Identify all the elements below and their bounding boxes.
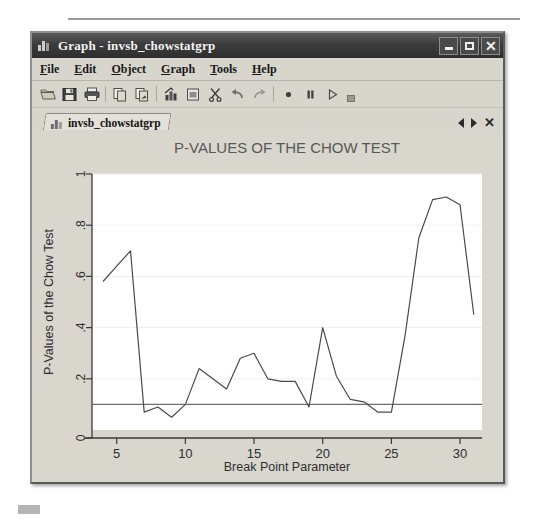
maximize-button[interactable] <box>460 37 479 55</box>
tab-prev-icon[interactable] <box>458 118 464 128</box>
menu-edit[interactable]: Edit <box>74 62 96 77</box>
x-axis-label: Break Point Parameter <box>224 460 350 474</box>
toolbar-separator <box>154 85 160 103</box>
y-tick-label: .6 <box>74 271 88 281</box>
close-button[interactable]: ✕ <box>481 37 500 55</box>
plot-area <box>92 174 482 430</box>
graph-window: Graph - invsb_chowstatgrp ✕ File Edit Ob… <box>30 31 505 484</box>
menu-tools[interactable]: Tools <box>210 62 237 77</box>
menu-graph[interactable]: Graph <box>161 62 195 77</box>
y-tick-label: .4 <box>74 322 88 332</box>
menu-file-rest: ile <box>47 62 59 76</box>
page-top-rule <box>68 18 520 20</box>
toolbar-separator <box>103 85 109 103</box>
x-tick-label: 20 <box>315 446 329 461</box>
y-axis-label: P-Values of the Chow Test <box>42 228 56 375</box>
toolbar-separator <box>271 85 277 103</box>
bar-chart-icon <box>38 39 52 52</box>
window-titlebar[interactable]: Graph - invsb_chowstatgrp ✕ <box>32 33 503 58</box>
x-tick-label: 5 <box>113 446 120 461</box>
tab-next-icon[interactable] <box>471 118 477 128</box>
x-tick-label: 25 <box>384 446 398 461</box>
play-icon[interactable] <box>322 84 343 105</box>
undo-icon[interactable] <box>227 84 248 105</box>
chart-svg: P-VALUES OF THE CHOW TEST0.2.4.6.8151015… <box>35 133 499 482</box>
toolbar <box>32 81 503 108</box>
graph-canvas-area: P-VALUES OF THE CHOW TEST0.2.4.6.8151015… <box>32 130 503 482</box>
bar-chart-icon <box>51 118 63 129</box>
chart-title: P-VALUES OF THE CHOW TEST <box>174 139 400 156</box>
x-tick-label: 10 <box>178 446 192 461</box>
x-tick-label: 15 <box>247 446 261 461</box>
y-tick-label: .2 <box>74 373 88 383</box>
record-icon[interactable] <box>278 84 299 105</box>
new-graph-icon[interactable] <box>183 84 204 105</box>
paste-icon[interactable] <box>132 84 153 105</box>
x-tick-label: 30 <box>453 446 467 461</box>
redo-icon[interactable] <box>249 84 270 105</box>
open-icon[interactable] <box>37 84 58 105</box>
print-icon[interactable] <box>81 84 102 105</box>
menu-help[interactable]: Help <box>252 62 277 77</box>
graph-canvas: P-VALUES OF THE CHOW TEST0.2.4.6.8151015… <box>35 133 499 478</box>
menu-object-rest: bject <box>121 62 146 76</box>
copy-icon[interactable] <box>110 84 131 105</box>
graph-editor-icon[interactable] <box>161 84 182 105</box>
tab-close-icon[interactable]: ✕ <box>484 116 495 129</box>
menu-tools-rest: ools <box>217 62 237 76</box>
minimize-button[interactable] <box>439 37 458 55</box>
window-title: Graph - invsb_chowstatgrp <box>58 38 215 54</box>
y-tick-label: 1 <box>74 170 88 177</box>
cut-icon[interactable] <box>205 84 226 105</box>
window-controls: ✕ <box>439 37 500 55</box>
y-tick-label: 0 <box>74 434 88 441</box>
menu-object[interactable]: Object <box>111 62 146 77</box>
tab-label: invsb_chowstatgrp <box>68 117 161 129</box>
menubar: File Edit Object Graph Tools Help <box>32 58 503 81</box>
save-icon[interactable] <box>59 84 80 105</box>
toolbar-overflow-handle[interactable] <box>346 86 355 102</box>
menu-file[interactable]: File <box>40 62 59 77</box>
menu-edit-rest: dit <box>82 62 96 76</box>
menu-help-rest: elp <box>261 62 276 76</box>
pause-icon[interactable] <box>300 84 321 105</box>
page-bottom-mark <box>18 505 40 514</box>
menu-graph-rest: raph <box>170 62 195 76</box>
y-tick-label: .8 <box>74 220 88 230</box>
